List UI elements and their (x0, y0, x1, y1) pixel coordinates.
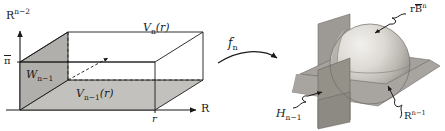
y-axis-label: Rn−2 (6, 8, 30, 21)
box-left-face-label-w: W (26, 68, 37, 81)
box-top-face-label-v: V (143, 21, 151, 34)
box-bottom-face-label-arg: (r) (100, 87, 114, 100)
x-axis-label-symbol: R (201, 102, 209, 115)
x-axis-label: R (201, 103, 209, 114)
box-bottom-face-label-v: V (76, 87, 84, 100)
ball-label-superscript: n (422, 2, 426, 10)
map-label: fn (228, 37, 238, 52)
horizontal-plane-label-superscript: n−1 (412, 109, 426, 117)
box-bottom-face-label: Vn−1(r) (76, 88, 114, 102)
y-axis-label-superscript: n−2 (14, 7, 30, 16)
y-axis-tick-pi: π (4, 56, 11, 66)
x-axis-tick-r-text: r (152, 113, 157, 124)
map-label-sub: n (232, 42, 237, 52)
vertical-plane-label: Hn−1 (276, 108, 301, 122)
box-top-face-label-arg: (r) (156, 21, 170, 34)
x-axis-tick-r: r (152, 114, 157, 124)
box-top-face-label: Vn(r) (143, 22, 170, 36)
figure-canvas (0, 0, 445, 131)
box-top-face (20, 32, 203, 62)
horizontal-plane-label: Rn−1 (404, 110, 426, 121)
horizontal-plane-label-symbol: R (404, 110, 412, 121)
vertical-plane-label-sub: n−1 (286, 113, 302, 122)
y-axis-tick-pi-text: π (4, 56, 11, 66)
box-left-face-label: Wn−1 (26, 69, 53, 83)
map-arrow-path (218, 52, 277, 63)
math-figure: Rn−2 π r R Vn(r) Wn−1 Vn−1(r) fn rBn Hn−… (0, 0, 445, 131)
ball-label-symbol: B (415, 4, 422, 14)
vertical-plane-label-h: H (276, 107, 286, 120)
ball-label: rBn (410, 3, 427, 14)
box-left-face-label-sub: n−1 (37, 74, 53, 83)
box-bottom-face-label-sub: n−1 (84, 93, 100, 102)
